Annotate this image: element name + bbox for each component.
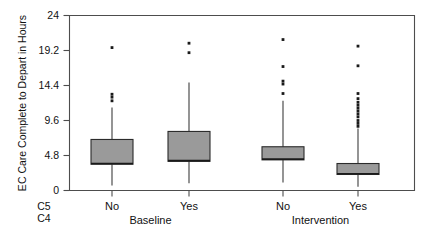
x-category-label: No [276,200,290,212]
box-rect [168,131,210,161]
outlier-point [282,80,285,83]
outlier-point [282,92,285,95]
y-tick-label: 4.8 [44,149,59,161]
y-tick-label: 24 [47,9,59,21]
plot-canvas: EC Care Complete to Depart in Hours 04.8… [0,0,437,249]
outlier-point [111,96,114,99]
outlier-point [282,38,285,41]
panel-variable-label: C4 [37,212,51,224]
chart-background [0,0,437,249]
boxplot-chart: EC Care Complete to Depart in Hours 04.8… [0,0,437,249]
box-rect [337,164,379,175]
outlier-point [357,92,360,95]
outlier-point [357,45,360,48]
x-panel-label: Baseline [129,214,171,226]
outlier-point [357,115,360,118]
outlier-point [111,99,114,102]
outlier-point [357,104,360,107]
y-tick-label: 9.6 [44,114,59,126]
category-variable-label: C5 [37,200,51,212]
outlier-point [357,101,360,104]
outlier-point [111,46,114,49]
y-tick-label: 14.4 [39,79,60,91]
box-rect [262,147,304,160]
outlier-point [188,51,191,54]
x-category-label: Yes [180,200,198,212]
y-tick-label: 19.2 [39,44,60,56]
outlier-point [282,65,285,68]
y-axis-title: EC Care Complete to Depart in Hours [16,15,28,191]
outlier-point [188,42,191,45]
x-category-label: Yes [349,200,367,212]
outlier-point [357,64,360,67]
outlier-point [111,93,114,96]
outlier-point [357,107,360,110]
outlier-point [282,83,285,86]
x-panel-label: Intervention [292,214,349,226]
outlier-point [357,113,360,116]
outlier-point [357,122,360,125]
outlier-point [357,97,360,100]
outlier-point [357,125,360,128]
x-category-label: No [105,200,119,212]
box-rect [91,139,133,164]
outlier-point [357,110,360,113]
outlier-point [357,119,360,122]
y-tick-label: 0 [53,184,59,196]
